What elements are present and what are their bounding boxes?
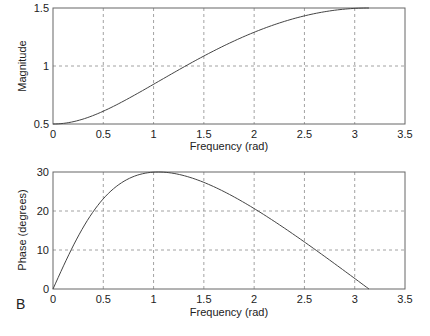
magnitude-x-ticks: 00.511.522.533.5 [50, 128, 413, 140]
phase-y-ticks: 0102030 [37, 166, 49, 295]
phase-y-label: Phase (degrees) [16, 189, 28, 270]
y-tick-label: 30 [37, 166, 49, 178]
y-tick-label: 0 [43, 283, 49, 295]
x-tick-label: 2.5 [297, 128, 312, 140]
x-tick-label: 2.5 [297, 293, 312, 305]
x-tick-label: 1 [151, 293, 157, 305]
x-tick-label: 2 [251, 293, 257, 305]
phase-curve [53, 172, 369, 289]
y-tick-label: 20 [37, 205, 49, 217]
x-tick-label: 1 [151, 128, 157, 140]
magnitude-x-label: Frequency (rad) [190, 140, 268, 152]
phase-axes-frame [53, 172, 405, 289]
panel-label: B [16, 296, 25, 312]
magnitude-grid [53, 8, 405, 124]
phase-grid [53, 172, 405, 289]
figure: 00.511.522.533.5 0.511.5 Frequency (rad)… [0, 0, 430, 336]
phase-x-ticks: 00.511.522.533.5 [50, 293, 413, 305]
x-tick-label: 3 [352, 128, 358, 140]
x-tick-label: 0 [50, 128, 56, 140]
x-tick-label: 2 [251, 128, 257, 140]
x-tick-label: 0.5 [96, 128, 111, 140]
phase-chart: 00.511.522.533.5 0102030 Frequency (rad)… [16, 166, 413, 318]
phase-x-label: Frequency (rad) [190, 306, 268, 318]
y-tick-label: 10 [37, 244, 49, 256]
x-tick-label: 3 [352, 293, 358, 305]
x-tick-label: 0 [50, 293, 56, 305]
x-tick-label: 1.5 [196, 128, 211, 140]
x-tick-label: 0.5 [96, 293, 111, 305]
y-tick-label: 0.5 [34, 118, 49, 130]
magnitude-y-ticks: 0.511.5 [34, 2, 49, 130]
x-tick-label: 1.5 [196, 293, 211, 305]
magnitude-y-label: Magnitude [16, 40, 28, 91]
y-tick-label: 1.5 [34, 2, 49, 14]
x-tick-label: 3.5 [397, 293, 412, 305]
magnitude-chart: 00.511.522.533.5 0.511.5 Frequency (rad)… [16, 2, 413, 152]
x-tick-label: 3.5 [397, 128, 412, 140]
y-tick-label: 1 [43, 60, 49, 72]
